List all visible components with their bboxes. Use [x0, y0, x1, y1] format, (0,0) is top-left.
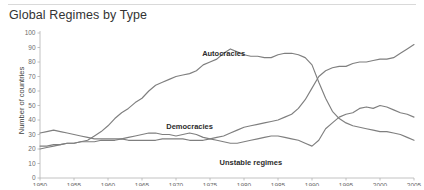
x-tick-label: 1970 — [169, 182, 184, 186]
series-line-democracies — [40, 45, 414, 147]
series-label-unstable-regimes: Unstable regimes — [220, 158, 283, 167]
page-title: Global Regimes by Type — [9, 8, 147, 22]
x-tick-label: 2000 — [373, 182, 388, 186]
chart-plot-area: Number of countries 01020304050607080901… — [0, 26, 424, 186]
y-tick-label: 10 — [28, 160, 36, 167]
x-tick-label: 1990 — [305, 182, 320, 186]
line-chart-svg: 0102030405060708090100195019551960196519… — [0, 26, 424, 186]
y-tick-label: 0 — [32, 174, 36, 181]
series-label-democracies: Democracies — [166, 122, 213, 131]
x-tick-label: 2005 — [407, 182, 422, 186]
header-divider — [8, 4, 416, 5]
y-tick-label: 80 — [28, 58, 36, 65]
x-tick-label: 1950 — [33, 182, 48, 186]
x-tick-label: 1960 — [101, 182, 116, 186]
y-tick-label: 60 — [28, 87, 36, 94]
x-tick-label: 1995 — [339, 182, 354, 186]
x-tick-label: 1965 — [135, 182, 150, 186]
y-tick-label: 70 — [28, 73, 36, 80]
x-tick-label: 1980 — [237, 182, 252, 186]
x-tick-label: 1975 — [203, 182, 218, 186]
y-tick-label: 40 — [28, 116, 36, 123]
x-tick-label: 1955 — [67, 182, 82, 186]
series-label-autocracies: Autocracies — [202, 49, 245, 58]
y-tick-label: 100 — [25, 29, 36, 36]
series-line-unstable-regimes — [40, 106, 414, 147]
y-tick-label: 90 — [28, 44, 36, 51]
y-tick-label: 20 — [28, 145, 36, 152]
x-tick-label: 1985 — [271, 182, 286, 186]
y-tick-label: 30 — [28, 131, 36, 138]
y-axis-title: Number of countries — [17, 36, 26, 166]
chart-page: Global Regimes by Type Number of countri… — [0, 0, 424, 190]
y-tick-label: 50 — [28, 102, 36, 109]
